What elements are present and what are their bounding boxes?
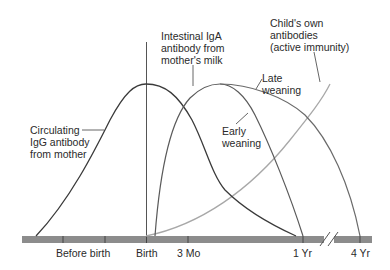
label-early-line-1: Early bbox=[222, 125, 261, 137]
axis-label-3mo: 3 Mo bbox=[177, 247, 200, 259]
label-igg-line-3: from mother bbox=[30, 148, 90, 160]
axis-label-birth: Birth bbox=[136, 247, 158, 259]
curve-igg bbox=[36, 84, 296, 236]
label-iga-line-2: antibody from bbox=[161, 42, 225, 54]
label-early-weaning: Early weaning bbox=[222, 125, 261, 149]
label-late-line-2: weaning bbox=[262, 84, 301, 96]
label-own-line-2: antibodies bbox=[270, 29, 349, 41]
label-igg: Circulating IgG antibody from mother bbox=[30, 124, 90, 160]
label-iga-line-3: mother's milk bbox=[161, 54, 225, 66]
label-late-line-1: Late bbox=[262, 72, 301, 84]
label-iga: Intestinal IgA antibody from mother's mi… bbox=[161, 30, 225, 66]
axis-label-4yr: 4 Yr bbox=[351, 247, 370, 259]
label-late-weaning: Late weaning bbox=[262, 72, 301, 96]
label-own-antibodies: Child's own antibodies (active immunity) bbox=[270, 17, 349, 53]
axis-label-1yr: 1 Yr bbox=[293, 247, 312, 259]
curve-iga-late bbox=[220, 84, 360, 236]
axis-label-before-birth: Before birth bbox=[56, 247, 110, 259]
time-axis-bar bbox=[22, 236, 372, 243]
label-own-line-1: Child's own bbox=[270, 17, 349, 29]
label-early-line-2: weaning bbox=[222, 137, 261, 149]
label-igg-line-1: Circulating bbox=[30, 124, 90, 136]
leader-own bbox=[314, 52, 320, 82]
label-iga-line-1: Intestinal IgA bbox=[161, 30, 225, 42]
leader-early bbox=[236, 113, 248, 124]
label-igg-line-2: IgG antibody bbox=[30, 136, 90, 148]
label-own-line-3: (active immunity) bbox=[270, 41, 349, 53]
curve-iga-early bbox=[155, 84, 303, 236]
curve-own-antibodies bbox=[146, 84, 330, 236]
